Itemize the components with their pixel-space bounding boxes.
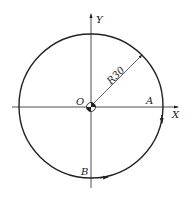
point-a-label: A: [145, 95, 153, 106]
direction-arrow-right: [162, 115, 163, 123]
circle-diagram: Y X O A B R30: [0, 0, 193, 199]
x-axis-label: X: [171, 109, 180, 120]
radius-label: R30: [104, 64, 127, 87]
point-b-label: B: [80, 166, 88, 177]
y-axis-label: Y: [96, 14, 104, 25]
origin-marker-icon: [87, 103, 96, 112]
origin-label: O: [76, 96, 84, 107]
